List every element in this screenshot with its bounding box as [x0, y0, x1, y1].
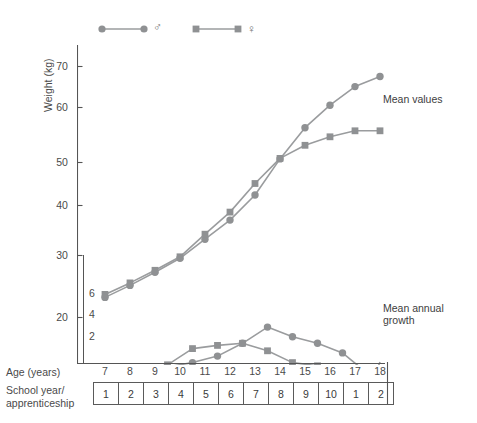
y-tick-50: 50 [52, 156, 72, 168]
school-year-row-label: School year/ apprenticeship [6, 384, 74, 409]
school-year-cell: 1 [344, 383, 369, 405]
annotation-mean-values: Mean values [383, 93, 443, 105]
y-tick-70: 70 [52, 60, 72, 72]
school-year-cell: 6 [219, 383, 244, 405]
data-point [227, 209, 234, 216]
x-tick-16: 16 [318, 365, 342, 377]
data-point [214, 352, 221, 359]
data-point [289, 333, 296, 340]
data-point [301, 124, 308, 131]
data-point [339, 349, 346, 356]
data-point [376, 73, 383, 80]
x-tick-15: 15 [293, 365, 317, 377]
x-tick-10: 10 [168, 365, 192, 377]
school-year-cell: 9 [294, 383, 319, 405]
series-weight-circle [101, 73, 383, 301]
data-point [152, 267, 159, 274]
data-point [226, 216, 233, 223]
legend-symbols [96, 18, 296, 40]
data-point [177, 253, 184, 260]
chart-figure: ♂ ♀ Weight (kg) 70 60 50 40 30 20 6 4 2 … [0, 0, 477, 423]
legend: ♂ ♀ [96, 18, 296, 40]
series-weight-square [102, 127, 384, 297]
x-tick-9: 9 [143, 365, 167, 377]
school-year-cell: 1 [94, 383, 119, 405]
x-tick-8: 8 [118, 365, 142, 377]
x-tick-11: 11 [193, 365, 217, 377]
x-tick-14: 14 [268, 365, 292, 377]
x-tick-12: 12 [218, 365, 242, 377]
data-point [252, 180, 259, 187]
school-year-cell: 10 [319, 383, 344, 405]
data-point [239, 340, 246, 347]
school-year-cell: 3 [144, 383, 169, 405]
data-point [264, 347, 271, 354]
data-point [251, 191, 258, 198]
data-point [214, 342, 221, 349]
data-point [314, 340, 321, 347]
school-year-table: 1234567891012 [93, 382, 394, 405]
x-tick-13: 13 [243, 365, 267, 377]
series-layer [101, 73, 383, 365]
data-point [351, 83, 358, 90]
series-line [105, 131, 380, 295]
y-tick-40: 40 [52, 199, 72, 211]
annotation-mean-annual-growth: Mean annual growth [383, 302, 444, 326]
school-year-cell: 2 [119, 383, 144, 405]
age-axis-right-rule [386, 362, 390, 404]
school-year-cell: 4 [169, 383, 194, 405]
series-line [105, 77, 380, 298]
x-tick-labels: 789101112131415161718 [77, 365, 407, 381]
y-tick-60: 60 [52, 101, 72, 113]
data-point [377, 127, 384, 134]
data-point [352, 127, 359, 134]
male-symbol: ♂ [153, 20, 162, 34]
x-axis-title: Age (years) [6, 366, 60, 378]
data-point [326, 102, 333, 109]
school-year-cell: 5 [194, 383, 219, 405]
x-tick-7: 7 [93, 365, 117, 377]
y-axis-ticks [78, 67, 83, 318]
data-point [302, 142, 309, 149]
school-year-cell: 7 [244, 383, 269, 405]
y-tick-20: 20 [52, 311, 72, 323]
x-tick-17: 17 [343, 365, 367, 377]
data-point [102, 291, 109, 298]
y-tick-30: 30 [52, 249, 72, 261]
data-point [277, 155, 284, 162]
data-point [127, 280, 134, 287]
female-symbol: ♀ [247, 22, 256, 36]
data-point [327, 133, 334, 140]
data-point [264, 323, 271, 330]
table-row: 1234567891012 [94, 383, 394, 405]
data-point [202, 231, 209, 238]
data-point [189, 345, 196, 352]
school-year-cell: 8 [269, 383, 294, 405]
